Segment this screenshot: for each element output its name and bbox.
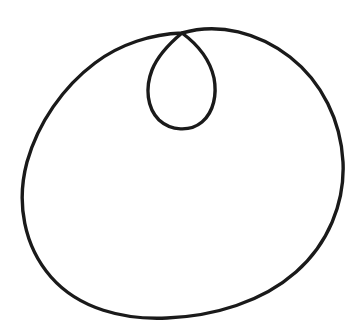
figure-canvas (0, 0, 364, 321)
limacon-drawing (0, 0, 364, 321)
canvas-background (0, 0, 364, 321)
